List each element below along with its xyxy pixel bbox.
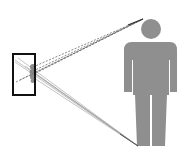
projection-diagram [0, 0, 187, 158]
figure-right-leg [152, 94, 167, 146]
feet-convergence [120, 134, 138, 146]
head-convergence [128, 19, 143, 25]
diagram-canvas [0, 0, 187, 158]
figure-torso [124, 42, 177, 95]
human-figure-icon [124, 19, 177, 146]
figure-left-leg [135, 94, 150, 146]
figure-head [141, 19, 161, 39]
